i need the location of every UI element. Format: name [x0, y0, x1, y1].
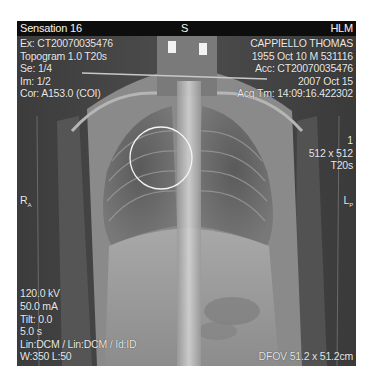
series-number: Se: 1/4 [20, 62, 113, 75]
lut-info: Lin:DCM / Lin:DCM / Id:ID [20, 338, 136, 351]
tube-current: 50.0 mA [20, 300, 136, 313]
accession-number: Acc: CT20070035476 [237, 62, 353, 75]
scanner-model: Sensation 16 [20, 22, 82, 35]
exam-id: Ex: CT20070035476 [20, 37, 113, 50]
institution-code: HLM [330, 22, 353, 35]
spine [177, 81, 201, 366]
window-level: W:350 L:50 [20, 350, 136, 363]
study-info-top-left: Ex: CT20070035476 Topogram 1.0 T20s Se: … [20, 37, 113, 100]
patient-name: CAPPIELLO THOMAS [237, 37, 353, 50]
display-fov: DFOV 51.2 x 51.2cm [259, 350, 353, 363]
kvp: 120.0 kV [20, 287, 136, 300]
acquisition-params-bottom-left: 120.0 kV 50.0 mA Tilt: 0.0 5.0 s Lin:DCM… [20, 287, 136, 363]
patient-dob-sex-id: 1955 Oct 10 M 531116 [237, 50, 353, 63]
matrix-size: 512 x 512 [309, 147, 353, 160]
series-description: Topogram 1.0 T20s [20, 50, 113, 63]
orientation-left-marker: LP [344, 194, 353, 212]
dicom-image-viewer[interactable]: Sensation 16 S HLM Ex: CT20070035476 Top… [17, 21, 356, 366]
orientation-right-marker: RA [20, 194, 31, 212]
orientation-left-sub: P [349, 202, 353, 208]
study-date: 2007 Oct 15 [237, 75, 353, 88]
patient-info-top-right: CAPPIELLO THOMAS 1955 Oct 10 M 531116 Ac… [237, 37, 353, 100]
slice-position: Cor: A153.0 (COI) [20, 87, 113, 100]
gantry-tilt: Tilt: 0.0 [20, 313, 136, 326]
orientation-right-sub: A [27, 202, 31, 208]
kernel: T20s [309, 159, 353, 172]
frame-number: 1 [309, 134, 353, 147]
scan-time: 5.0 s [20, 325, 136, 338]
image-number: Im: 1/2 [20, 75, 113, 88]
image-info-mid-right: 1 512 x 512 T20s [309, 134, 353, 172]
orientation-top: S [181, 22, 188, 35]
acquisition-time: Acq Tm: 14:09:16.422302 [237, 87, 353, 100]
